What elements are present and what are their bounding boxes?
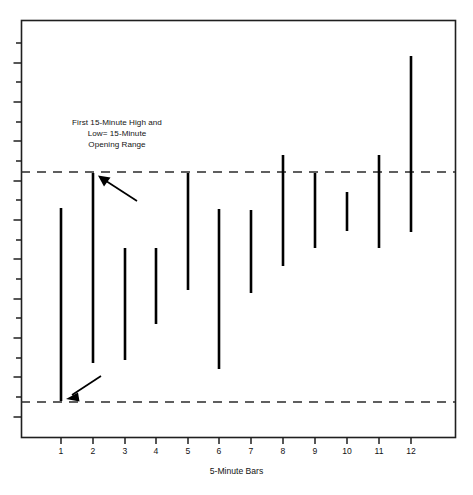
chart-canvas <box>0 0 473 495</box>
arrow-to-opening-range-low-icon <box>66 376 101 402</box>
x-tick-label-9: 9 <box>303 446 327 456</box>
callout-arrows-group <box>66 176 137 402</box>
arrow-to-opening-range-high-icon <box>98 176 137 202</box>
x-tick-label-3: 3 <box>113 446 137 456</box>
opening-range-reference-lines <box>21 172 455 402</box>
x-tick-label-7: 7 <box>239 446 263 456</box>
x-tick-label-10: 10 <box>335 446 359 456</box>
plot-frame <box>22 21 456 438</box>
x-tick-label-4: 4 <box>144 446 168 456</box>
x-tick-label-8: 8 <box>271 446 295 456</box>
x-tick-label-6: 6 <box>207 446 231 456</box>
opening-range-annotation: First 15-Minute High and Low= 15-Minute … <box>53 117 181 151</box>
price-bars-group <box>61 56 411 401</box>
y-axis-ticks <box>14 43 22 417</box>
x-tick-label-12: 12 <box>399 446 423 456</box>
x-tick-label-5: 5 <box>176 446 200 456</box>
opening-range-bar-chart: First 15-Minute High and Low= 15-Minute … <box>0 0 473 495</box>
x-tick-label-1: 1 <box>49 446 73 456</box>
x-axis-title: 5-Minute Bars <box>0 466 473 476</box>
x-tick-label-11: 11 <box>367 446 391 456</box>
x-tick-label-2: 2 <box>81 446 105 456</box>
